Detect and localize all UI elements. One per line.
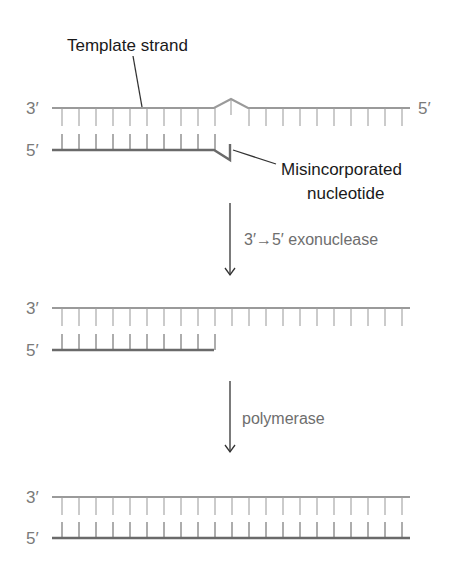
- panel3-bottom-5prime-label: 5′: [26, 529, 39, 548]
- panel2-top-3prime-label: 3′: [26, 299, 39, 318]
- template-strand-bases: [62, 100, 402, 126]
- panel1-top-5prime-label: 5′: [418, 99, 431, 118]
- new-strand-bases: [62, 522, 402, 538]
- template-strand-label: Template strand: [67, 36, 188, 55]
- polymerase-step-label: polymerase: [242, 410, 325, 427]
- misincorporated-leader-line: [233, 150, 276, 164]
- panel1-bottom-5prime-label: 5′: [26, 141, 39, 160]
- dna-proofreading-diagram: Template strand 3′ 5′ 5′ Misincorporated…: [0, 0, 450, 563]
- template-strand-bases: [62, 308, 402, 326]
- template-strand-bases: [62, 497, 402, 515]
- new-strand-bases: [62, 334, 215, 350]
- panel-mismatch: Template strand 3′ 5′ 5′ Misincorporated…: [26, 36, 431, 203]
- exonuclease-step-label: 3′→5′ exonuclease: [244, 231, 378, 248]
- panel-after-excision: 3′ 5′: [26, 299, 410, 360]
- panel1-top-3prime-label: 3′: [26, 99, 39, 118]
- step-polymerase: polymerase: [225, 381, 325, 452]
- new-strand-bases: [62, 134, 215, 150]
- misincorporated-label-line2: nucleotide: [307, 184, 385, 203]
- misincorporated-label-line1: Misincorporated: [281, 160, 402, 179]
- panel2-bottom-5prime-label: 5′: [26, 341, 39, 360]
- panel-repaired: 3′ 5′: [26, 488, 410, 548]
- panel3-top-3prime-label: 3′: [26, 488, 39, 507]
- template-strand-leader-line: [133, 56, 142, 107]
- step-exonuclease: 3′→5′ exonuclease: [225, 203, 378, 275]
